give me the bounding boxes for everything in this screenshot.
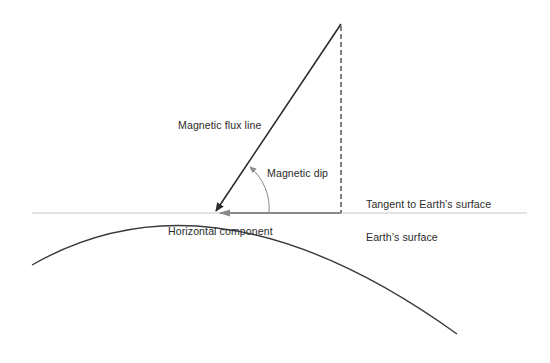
label-magnetic-dip: Magnetic dip xyxy=(267,167,328,179)
magnetic-dip-diagram xyxy=(0,0,550,363)
magnetic-flux-line-arrow xyxy=(216,24,341,211)
label-magnetic-flux-line: Magnetic flux line xyxy=(178,119,261,131)
label-horizontal-component: Horizontal component xyxy=(168,225,273,237)
label-earth-surface: Earth’s surface xyxy=(366,231,438,243)
label-tangent: Tangent to Earth’s surface xyxy=(366,198,491,210)
